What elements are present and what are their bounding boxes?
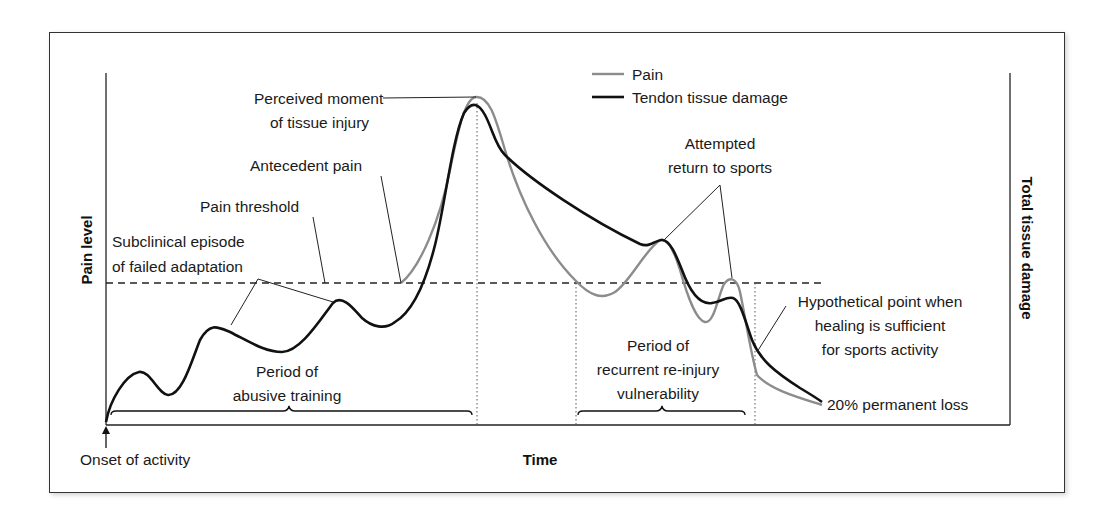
healing-leader-line (757, 306, 786, 352)
antecedent-leader-line (381, 176, 401, 283)
reinjury-label-line1: Period of (627, 337, 690, 354)
injury-label-line1: Perceived moment (254, 90, 384, 107)
legend-pain-label: Pain (632, 66, 663, 83)
reinjury-label-line3: vulnerability (617, 385, 699, 402)
permanent-loss-label: 20% permanent loss (827, 396, 969, 413)
healing-label-line1: Hypothetical point when (798, 293, 963, 310)
reinjury-brace (578, 406, 745, 415)
healing-label-line3: for sports activity (822, 341, 939, 358)
return-label-line2: return to sports (668, 159, 772, 176)
tendon-injury-diagram: Pain Tendon tissue damage Perceived mome… (0, 0, 1107, 523)
onset-label: Onset of activity (80, 451, 191, 468)
y-axis-right-title: Total tissue damage (1019, 176, 1036, 319)
subclinical-leader-line-2 (258, 279, 333, 302)
injury-label-line2: of tissue injury (270, 114, 369, 131)
reinjury-label-line2: recurrent re-injury (597, 361, 720, 378)
healing-label-line2: healing is sufficient (815, 317, 946, 334)
diagram-stage: Pain Tendon tissue damage Perceived mome… (0, 0, 1107, 523)
legend-damage-label: Tendon tissue damage (632, 89, 788, 106)
pain-curve (401, 97, 822, 405)
subclinical-leader-line-1 (231, 279, 258, 325)
x-axis-title: Time (523, 451, 558, 468)
y-axis-left-title: Pain level (78, 215, 95, 284)
legend: Pain Tendon tissue damage (592, 66, 788, 106)
abusive-label-line2: abusive training (233, 387, 342, 404)
subclinical-label-line1: Subclinical episode (112, 233, 245, 250)
antecedent-label: Antecedent pain (250, 157, 362, 174)
subclinical-label-line2: of failed adaptation (112, 258, 243, 275)
abusive-label-line1: Period of (256, 363, 319, 380)
return-leader-line-2 (720, 185, 732, 278)
injury-leader-line (383, 97, 476, 98)
threshold-label: Pain threshold (200, 198, 299, 215)
abusive-training-brace (111, 406, 472, 415)
return-leader-line-1 (664, 185, 720, 240)
threshold-leader-line (313, 217, 325, 283)
return-label-line1: Attempted (685, 135, 756, 152)
onset-arrow-icon (102, 426, 110, 448)
